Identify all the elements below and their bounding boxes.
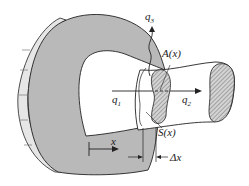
q1-label: q1 bbox=[112, 93, 121, 108]
x-label: x bbox=[110, 135, 116, 147]
end-cross-section bbox=[209, 64, 234, 122]
q3-label: q3 bbox=[145, 10, 155, 25]
delta-x-label: Δx bbox=[169, 151, 181, 163]
A-label: A(x) bbox=[161, 47, 181, 60]
S-label: S(x) bbox=[158, 126, 176, 139]
q3-arrowhead bbox=[149, 26, 155, 32]
heat-flow-diagram: q3 A(x) q1 q2 S(x) x Δx bbox=[0, 0, 249, 186]
